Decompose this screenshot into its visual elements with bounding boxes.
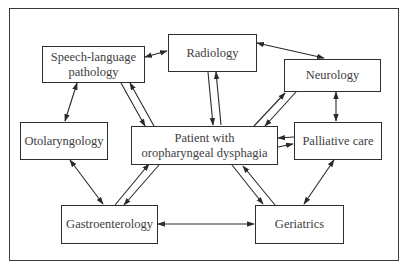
node-label-line2: oropharyngeal dysphagia (141, 146, 267, 161)
edge-palliative-geriatrics (304, 160, 334, 204)
care-team-diagram: Speech-language pathology Radiology Neur… (0, 0, 408, 271)
node-label-line1: Patient with (174, 131, 234, 146)
node-label: Geriatrics (275, 217, 324, 232)
node-label: Neurology (306, 68, 359, 83)
node-label: Palliative care (302, 134, 373, 149)
node-geriatrics: Geriatrics (255, 205, 344, 244)
node-speech-language-pathology: Speech-language pathology (42, 46, 145, 83)
edge-radiology-neurology (257, 43, 324, 58)
node-neurology: Neurology (284, 59, 381, 92)
node-patient: Patient with oropharyngeal dysphagia (131, 126, 278, 165)
node-label: Otolaryngology (24, 134, 103, 149)
node-radiology: Radiology (168, 34, 257, 72)
edge-speech-radiology (145, 51, 167, 57)
node-label-line2: pathology (69, 65, 119, 80)
node-label: Gastroenterology (66, 217, 153, 232)
node-label: Radiology (186, 46, 238, 61)
node-gastroenterology: Gastroenterology (61, 205, 158, 244)
edge-otolaryngology-gastro (70, 160, 103, 204)
node-otolaryngology: Otolaryngology (20, 122, 108, 160)
node-palliative-care: Palliative care (294, 122, 382, 160)
edge-speech-otolaryngology (65, 83, 77, 121)
node-label-line1: Speech-language (51, 50, 136, 65)
